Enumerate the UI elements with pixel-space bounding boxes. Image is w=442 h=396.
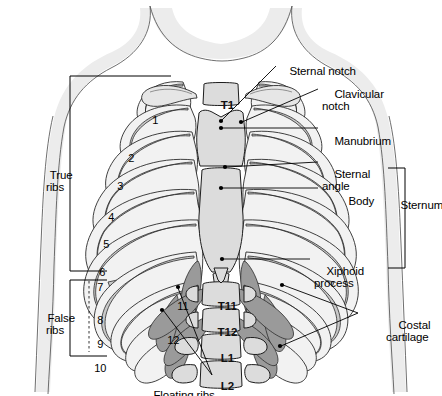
anatomy-figure: .bone { fill:#f2f2f2; stroke:#2b2b2b; st… [0,0,442,396]
vertebra-label-t1: T1 [203,87,239,123]
label-costal-cartilage: Costal cartilage [386,306,430,356]
rib-number-10: 10 [82,350,106,386]
label-true-ribs: True ribs [32,156,78,206]
label-false-ribs: False ribs [28,299,82,349]
rib-number-1: 1 [140,102,158,138]
label-clavicular-notch: Clavicular notch [322,75,384,125]
label-sternum: Sternum [388,186,442,224]
label-manubrium: Manubrium [322,122,391,160]
label-body: Body [336,182,374,220]
rib-number-11: 11 [165,288,189,324]
vertebra-label-l2: L2 [203,368,239,396]
rib-number-12: 12 [155,322,179,358]
label-xiphoid-process: Xiphoid process [314,252,364,302]
rib-number-7: 7 [85,269,103,305]
